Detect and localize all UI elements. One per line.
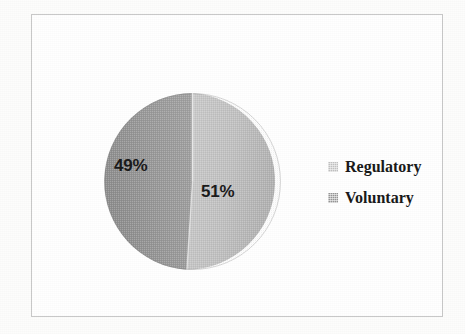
pie-label-regulatory: 51% [201,182,234,202]
legend-item-regulatory[interactable]: Regulatory [328,151,458,182]
plot-area: 49% 51% [73,79,313,279]
chart-frame: 49% 51% Regulatory Voluntary [31,14,443,317]
legend-label-regulatory: Regulatory [345,159,421,175]
legend-label-voluntary: Voluntary [345,190,414,206]
pie-graphic [104,93,281,270]
chart-legend: Regulatory Voluntary [328,151,458,213]
legend-swatch-voluntary [328,193,338,203]
legend-item-voluntary[interactable]: Voluntary [328,182,458,213]
pie-svg [104,93,281,270]
pie-label-voluntary: 49% [114,156,147,176]
pie-chart-figure: 49% 51% Regulatory Voluntary [0,0,465,334]
legend-swatch-regulatory [328,162,338,172]
